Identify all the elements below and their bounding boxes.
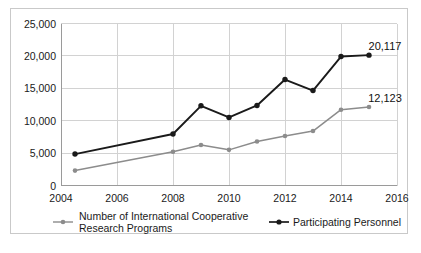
data-point: [254, 103, 259, 108]
x-tick-label: 2014: [329, 192, 353, 204]
data-point: [170, 131, 175, 136]
x-tick-label: 2010: [217, 192, 241, 204]
data-point: [310, 88, 315, 93]
chart-svg: 25,000 20,000 15,000 10,000 5,000 0 2004…: [11, 9, 409, 235]
data-point: [283, 134, 288, 139]
data-point: [72, 151, 77, 156]
legend-item-participating-personnel[interactable]: Participating Personnel: [269, 216, 401, 228]
x-tick-label: 2006: [105, 192, 129, 204]
vertical-gridlines: [117, 24, 341, 186]
data-point: [199, 143, 204, 148]
legend-point-marker-black: [276, 219, 281, 224]
data-point: [226, 115, 231, 120]
data-point: [227, 148, 232, 153]
legend-point-marker-gray: [61, 220, 66, 225]
data-point: [366, 52, 371, 57]
y-tick-label: 10,000: [24, 115, 56, 127]
data-point: [339, 107, 344, 112]
data-label-participating-personnel: 20,117: [369, 40, 402, 52]
legend-label-line2: Research Programs: [79, 222, 172, 234]
line-chart: 25,000 20,000 15,000 10,000 5,000 0 2004…: [11, 9, 409, 235]
data-point: [255, 139, 260, 144]
data-point: [73, 168, 78, 173]
legend-label-line1: Number of International Cooperative: [79, 210, 248, 222]
legend-label-line1: Participating Personnel: [293, 216, 401, 228]
data-point: [338, 54, 343, 59]
chart-legend: Number of International Cooperative Rese…: [53, 210, 401, 234]
x-tick-label: 2004: [49, 192, 73, 204]
x-axis-tick-labels: 2004 2006 2008 2010 2012 2014 2016: [49, 192, 409, 204]
legend-item-research-programs[interactable]: Number of International Cooperative Rese…: [53, 210, 248, 234]
x-tick-label: 2016: [385, 192, 409, 204]
y-axis-tick-labels: 25,000 20,000 15,000 10,000 5,000 0: [24, 18, 56, 192]
x-tick-label: 2012: [273, 192, 297, 204]
y-tick-label: 25,000: [24, 18, 56, 30]
y-tick-label: 15,000: [24, 82, 56, 94]
data-point: [198, 103, 203, 108]
x-tick-label: 2008: [161, 192, 185, 204]
y-tick-label: 0: [50, 180, 56, 192]
series-line: [75, 55, 369, 154]
data-point: [282, 77, 287, 82]
y-tick-label: 20,000: [24, 50, 56, 62]
y-tick-label: 5,000: [30, 147, 56, 159]
data-label-research-programs: 12,123: [368, 92, 402, 104]
data-point: [171, 150, 176, 155]
data-point: [311, 129, 316, 134]
series-line: [75, 107, 369, 171]
data-point: [367, 105, 372, 110]
chart-figure: 25,000 20,000 15,000 10,000 5,000 0 2004…: [10, 8, 408, 234]
